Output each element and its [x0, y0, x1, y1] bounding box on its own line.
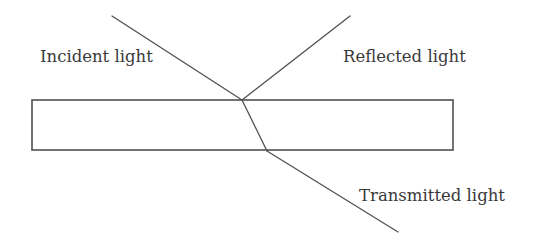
reflected-ray [242, 16, 350, 100]
incident-light-label: Incident light [40, 47, 153, 66]
refraction-diagram: Incident light Reflected light Transmitt… [0, 0, 542, 248]
medium-slab [32, 100, 453, 150]
transmitted-light-label: Transmitted light [359, 186, 505, 205]
reflected-light-label: Reflected light [343, 47, 466, 66]
